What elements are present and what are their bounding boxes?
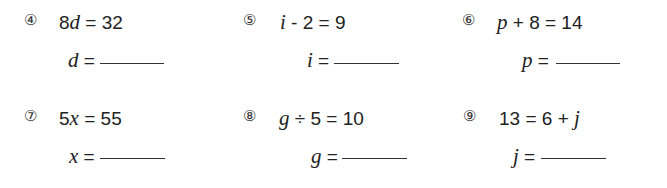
problem-number: ④: [24, 11, 37, 29]
equation: g ÷ 5 = 10: [279, 108, 364, 129]
problem-number: ⑦: [24, 107, 37, 125]
answer-blank[interactable]: [100, 158, 165, 159]
answer-label: g =: [311, 146, 338, 167]
problem-number: ⑧: [243, 107, 256, 125]
answer-blank[interactable]: [100, 63, 164, 64]
problem-number: ⑥: [462, 11, 475, 29]
answer-label: p =: [522, 50, 549, 71]
answer-label: j =: [513, 146, 535, 167]
equation: 5x = 55: [59, 108, 122, 129]
problem-number: ⑨: [463, 107, 476, 125]
equation: i - 2 = 9: [280, 12, 346, 33]
equation: 8d = 32: [59, 12, 123, 33]
equation: p + 8 = 14: [497, 12, 583, 33]
answer-label: d =: [68, 50, 95, 71]
answer-blank[interactable]: [541, 158, 606, 159]
answer-label: x =: [69, 146, 95, 167]
equation: 13 = 6 + j: [499, 108, 580, 129]
answer-blank[interactable]: [556, 63, 620, 64]
problem-number: ⑤: [243, 11, 256, 29]
answer-blank[interactable]: [334, 63, 399, 64]
answer-blank[interactable]: [342, 158, 407, 159]
answer-label: i =: [307, 50, 329, 71]
